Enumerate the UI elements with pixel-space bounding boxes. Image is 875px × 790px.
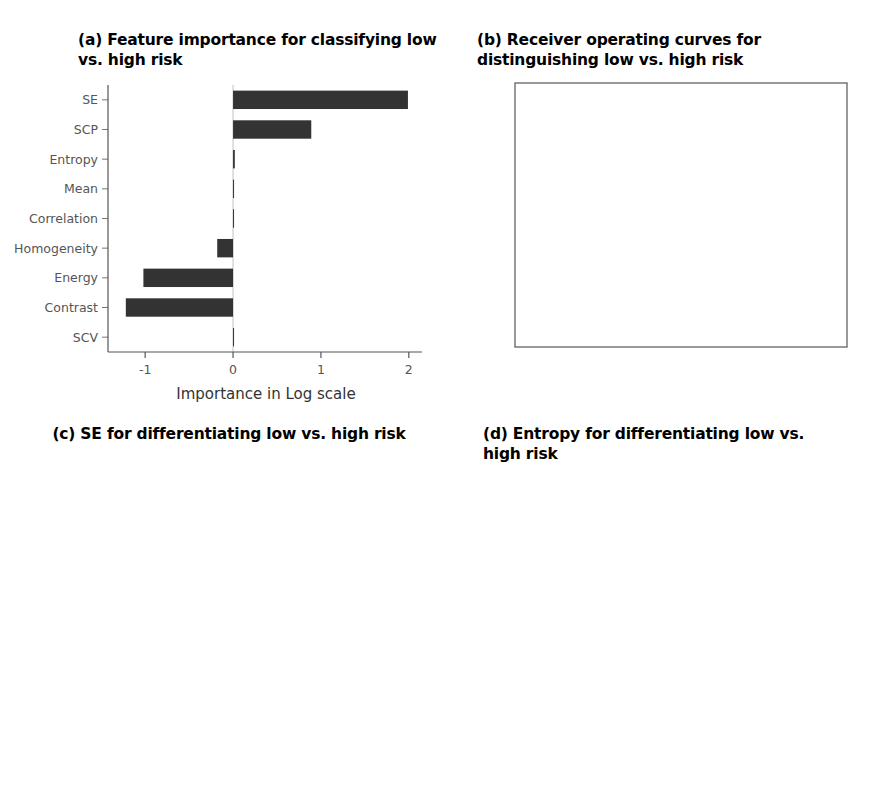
- category-label: Energy: [54, 270, 98, 285]
- panel-a-feature-importance: (a) Feature importance for classifying l…: [0, 0, 440, 415]
- bar: [233, 180, 234, 198]
- panel-a-chart: SESCPEntropyMeanCorrelationHomogeneityEn…: [0, 0, 440, 415]
- x-tick-label: -1: [139, 362, 151, 377]
- x-tick-label: 2: [405, 362, 413, 377]
- panel-d-entropy-boxplot: (d) Entropy for differentiating low vs. …: [437, 415, 875, 790]
- bar: [233, 150, 235, 168]
- bar: [233, 328, 234, 346]
- panel-b-chart: [437, 0, 875, 415]
- bar: [126, 298, 233, 316]
- category-label: Contrast: [45, 300, 99, 315]
- plot-frame: [515, 83, 847, 347]
- panel-d-chart: [437, 415, 875, 790]
- panel-c-se-boxplot: (c) SE for differentiating low vs. high …: [0, 415, 440, 790]
- bar: [233, 120, 311, 138]
- category-label: Mean: [64, 181, 98, 196]
- category-label: Entropy: [49, 152, 98, 167]
- x-axis-title: Importance in Log scale: [176, 385, 355, 403]
- panel-b-roc-curves: (b) Receiver operating curves for distin…: [437, 0, 875, 415]
- bar: [217, 239, 233, 257]
- category-label: SCP: [74, 122, 99, 137]
- bar: [233, 209, 234, 227]
- x-tick-label: 1: [317, 362, 325, 377]
- category-label: Correlation: [29, 211, 98, 226]
- panel-c-chart: [0, 415, 440, 790]
- x-tick-label: 0: [229, 362, 237, 377]
- category-label: SCV: [73, 330, 99, 345]
- bar: [233, 91, 408, 109]
- category-label: Homogeneity: [14, 241, 98, 256]
- bar: [143, 269, 233, 287]
- category-label: SE: [82, 92, 98, 107]
